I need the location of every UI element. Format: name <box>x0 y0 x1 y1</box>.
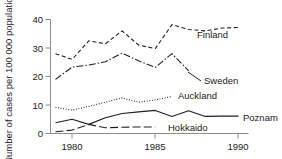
y-tick-label-40: 40 <box>32 14 43 25</box>
x-tick-label-1980: 1980 <box>61 141 82 152</box>
x-tick-label-1990: 1990 <box>227 141 248 152</box>
series-label-poznam: Poznam <box>243 112 278 123</box>
series-label-sweden: Sweden <box>204 75 238 86</box>
series-label-hokkaido: Hokkaido <box>168 122 208 133</box>
series-line-auckland <box>55 96 171 110</box>
y-tick-label-20: 20 <box>32 71 43 82</box>
y-tick-label-10: 10 <box>32 100 43 111</box>
y-tick-label-30: 30 <box>32 43 43 54</box>
series-line-sweden <box>55 53 188 79</box>
y-tick-label-0: 0 <box>38 128 43 139</box>
series-line-poznam <box>55 110 238 124</box>
series-label-finland: Finland <box>197 29 228 40</box>
line-chart: Number of cases per 100 000 population 4… <box>0 0 282 159</box>
sweden-leader-line <box>188 72 201 81</box>
x-axis-ticks: 1980 1985 1990 <box>61 134 248 153</box>
chart-figure: Number of cases per 100 000 population 4… <box>0 0 282 159</box>
y-axis-ticks: 40 30 20 10 0 <box>32 14 50 139</box>
x-tick-label-1985: 1985 <box>144 141 165 152</box>
series-line-hokkaido <box>55 124 155 131</box>
series-label-auckland: Auckland <box>178 90 217 101</box>
y-axis-title: Number of cases per 100 000 population <box>3 0 14 159</box>
